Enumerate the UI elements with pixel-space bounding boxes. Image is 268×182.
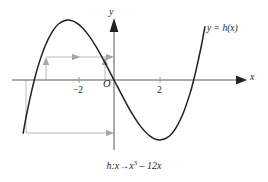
lower-horizontal-arrowhead — [106, 130, 114, 136]
x-axis-label: x — [250, 72, 254, 82]
y-axis-label: y — [109, 7, 113, 17]
x-tick-label-pos2: 2 — [157, 86, 162, 96]
graph-figure: y x O −2 2 y = h(x) h:x→x3 – 12x — [0, 0, 268, 182]
caption-maps-to-arrow: → — [119, 160, 129, 171]
figure-caption: h:x→x3 – 12x — [0, 160, 268, 171]
upper-horizontal-end-arrowhead — [106, 54, 114, 60]
x-axis-arrowhead — [236, 76, 247, 85]
caption-term-exponent: 3 — [134, 159, 137, 166]
axes-group — [12, 18, 247, 150]
y-axis-arrowhead — [110, 18, 119, 32]
left-vertical-arrowhead — [43, 57, 49, 65]
curve-equation-label: y = h(x) — [207, 24, 238, 34]
auxiliary-construction-group — [26, 54, 114, 136]
upper-horizontal-mid-arrowhead — [72, 54, 80, 60]
origin-label: O — [103, 79, 111, 90]
x-tick-label-neg2: −2 — [73, 86, 83, 96]
caption-linear-term: – 12x — [140, 160, 162, 171]
